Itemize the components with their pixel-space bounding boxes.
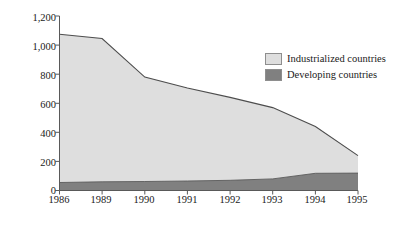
cfc-production-area-chart: CFC production (000 ODP tons) 1,200 1,00… — [0, 0, 408, 227]
legend-swatch-icon — [265, 69, 282, 81]
x-tick-label: 1991 — [167, 194, 207, 206]
x-tick-label: 1990 — [124, 194, 164, 206]
x-axis-tick-labels: 1986 1989 1990 1991 1992 1993 1994 1995 — [0, 0, 408, 227]
x-tick-label: 1993 — [252, 194, 292, 206]
chart-legend: Industrialized countries Developing coun… — [265, 52, 386, 84]
legend-label: Developing countries — [287, 68, 377, 82]
x-tick-label: 1995 — [337, 194, 377, 206]
legend-item-industrialized: Industrialized countries — [265, 52, 386, 66]
legend-label: Industrialized countries — [287, 52, 386, 66]
legend-item-developing: Developing countries — [265, 68, 386, 82]
x-tick-label: 1989 — [81, 194, 121, 206]
x-tick-label: 1986 — [39, 194, 79, 206]
x-tick-label: 1994 — [295, 194, 335, 206]
legend-swatch-icon — [265, 53, 282, 65]
x-tick-label: 1992 — [210, 194, 250, 206]
